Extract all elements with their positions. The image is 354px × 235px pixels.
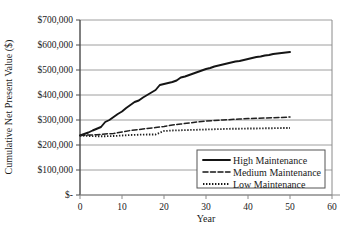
legend: High MaintenanceMedium MaintenanceLow Ma… [197, 150, 325, 190]
y-tick-label: $700,000 [37, 15, 73, 25]
x-tick-label: 50 [285, 202, 295, 212]
y-tick-label: $200,000 [37, 140, 73, 150]
x-tick-label: 20 [159, 202, 169, 212]
x-tick-label: 0 [78, 202, 83, 212]
y-tick-label: $600,000 [37, 40, 73, 50]
legend-label: Medium Maintenance [233, 167, 322, 178]
legend-label: Low Maintenance [233, 179, 306, 190]
x-axis-title: Year [197, 213, 216, 224]
x-tick-label: 30 [201, 202, 211, 212]
y-tick-label: $100,000 [37, 165, 73, 175]
x-tick-label: 10 [117, 202, 127, 212]
x-axis: 0102030405060 [78, 195, 337, 212]
y-tick-label: $400,000 [37, 90, 73, 100]
chart-container: $-$100,000$200,000$300,000$400,000$500,0… [0, 0, 354, 235]
legend-label: High Maintenance [233, 155, 308, 166]
y-tick-label: $500,000 [37, 65, 73, 75]
y-tick-label: $- [65, 190, 73, 200]
x-tick-label: 40 [243, 202, 253, 212]
y-tick-label: $300,000 [37, 115, 73, 125]
y-axis: $-$100,000$200,000$300,000$400,000$500,0… [37, 15, 80, 200]
x-tick-label: 60 [327, 202, 337, 212]
y-axis-title: Cumulative Net Present Value ($) [3, 40, 15, 175]
line-chart: $-$100,000$200,000$300,000$400,000$500,0… [0, 0, 354, 235]
